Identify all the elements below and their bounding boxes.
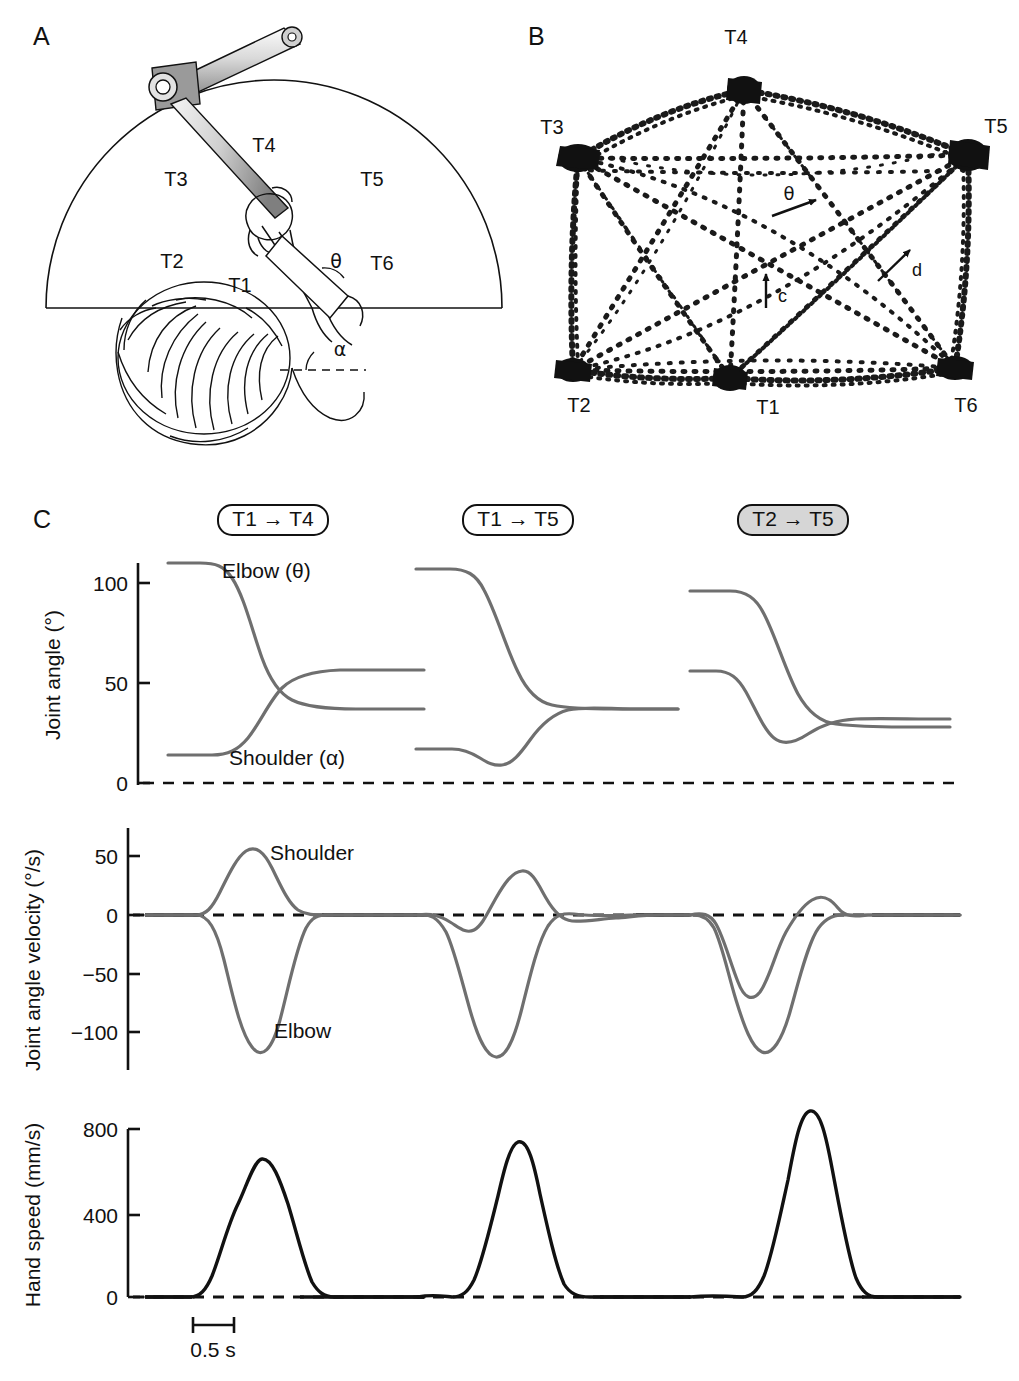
velocity-ticklabel-0: 0 [106,904,118,927]
column-header-1-label: T1 → T4 [232,507,314,530]
velocity-elbow-label: Elbow [274,1019,332,1042]
column-header-3: T2 → T5 [738,505,848,535]
panel-b-target-t5: T5 [984,115,1007,137]
hand-speed-axis-title: Hand speed (mm/s) [21,1123,44,1307]
panel-a-target-t1: T1 [228,274,251,296]
panel-a-target-t5: T5 [360,168,383,190]
column-header-3-label: T2 → T5 [752,507,833,530]
joint-angle-ticklabel-0: 0 [116,772,128,795]
joint-angle-ticklabel-50: 50 [105,672,128,695]
panel-b-d-label: d [912,260,922,280]
panel-c-letter: C [33,505,51,533]
panel-a-target-t3: T3 [164,168,187,190]
panel-a-letter: A [33,22,50,50]
velocity-ticklabel-neg50: −50 [82,963,118,986]
velocity-ticklabel-neg100: −100 [71,1021,118,1044]
panel-a-alpha-label: α [334,338,347,360]
hand-speed-ticklabel-0: 0 [106,1286,118,1309]
hand-speed-ticklabel-400: 400 [83,1204,118,1227]
panel-a-theta-label: θ [330,250,342,272]
panel-b-theta-label: θ [783,183,794,204]
column-header-2-label: T1 → T5 [477,507,558,530]
panel-b-target-t4: T4 [724,26,747,48]
panel-b-target-t1: T1 [756,396,779,418]
panel-a-target-t2: T2 [160,250,183,272]
figure-background [0,0,1019,1381]
joint-angle-elbow-label: Elbow (θ) [222,559,311,582]
joint-angle-shoulder-label: Shoulder (α) [229,746,345,769]
velocity-ticklabel-50: 50 [95,845,118,868]
panel-a-target-t4: T4 [252,134,275,156]
column-header-2: T1 → T5 [463,505,573,535]
column-header-1: T1 → T4 [218,505,328,535]
figure-root: A [0,0,1019,1381]
scalebar-label: 0.5 s [190,1338,236,1361]
panel-b-target-t6: T6 [954,394,977,416]
panel-b-target-t3: T3 [540,116,563,138]
velocity-shoulder-label: Shoulder [270,841,354,864]
panel-a-target-t6: T6 [370,252,393,274]
velocity-axis-title: Joint angle velocity (°/s) [21,849,44,1071]
hand-speed-ticklabel-800: 800 [83,1118,118,1141]
panel-b-c-label: c [778,286,787,306]
joint-angle-axis-title: Joint angle (°) [41,610,64,740]
panel-b-letter: B [528,22,545,50]
figure-canvas: A [0,0,1019,1381]
panel-b-target-t2: T2 [567,394,590,416]
joint-angle-ticklabel-100: 100 [93,572,128,595]
